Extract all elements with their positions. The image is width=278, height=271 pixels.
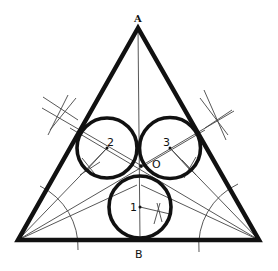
construction-drawing: A B O 1 2 3 xyxy=(0,0,278,271)
label-circle-1: 1 xyxy=(130,201,137,214)
label-circle-2: 2 xyxy=(107,136,114,149)
cross-mark-upper-left xyxy=(43,95,78,135)
label-b: B xyxy=(135,248,143,261)
diagram-canvas: A B O 1 2 3 xyxy=(0,0,278,271)
center-point-1 xyxy=(139,206,142,209)
label-circle-3: 3 xyxy=(163,136,170,149)
label-a: A xyxy=(133,13,142,24)
cross-mark-circle1 xyxy=(154,203,162,224)
label-o: O xyxy=(152,158,161,171)
radius-line-3 xyxy=(170,148,190,170)
radius-line-2 xyxy=(85,148,107,172)
radius-line-1 xyxy=(140,207,170,214)
center-point-o xyxy=(139,164,143,168)
